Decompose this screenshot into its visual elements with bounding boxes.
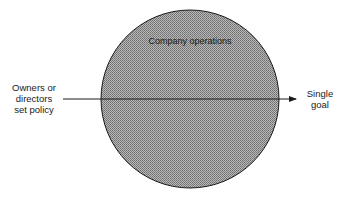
left-label-line: Owners or <box>6 82 62 93</box>
right-label-line: goal <box>300 99 340 110</box>
right-label-line: Single <box>300 88 340 99</box>
diagram-canvas: Company operations Owners or directors s… <box>0 0 346 197</box>
left-label-line: directors <box>6 93 62 104</box>
policy-source-label: Owners or directors set policy <box>6 82 62 115</box>
circle-label: Company operations <box>130 36 250 47</box>
left-label-line: set policy <box>6 104 62 115</box>
goal-label: Single goal <box>300 88 340 110</box>
